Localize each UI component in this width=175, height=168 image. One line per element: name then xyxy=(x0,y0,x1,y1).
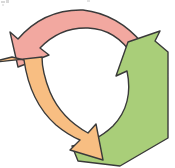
cycle-diagram-canvas xyxy=(0,0,175,168)
scan-artifact-a xyxy=(1,1,5,3)
scan-artifact-d xyxy=(87,0,90,2)
cycle-diagram-figure xyxy=(0,0,175,168)
scan-artifact-b xyxy=(6,0,9,3)
scan-artifact-c xyxy=(2,4,4,6)
orange-arrow xyxy=(0,57,103,160)
